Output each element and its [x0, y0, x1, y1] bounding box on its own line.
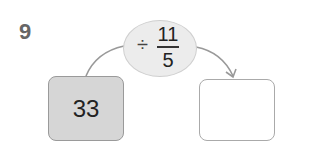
fraction: 11 5 [157, 23, 179, 71]
fraction-numerator: 11 [157, 23, 179, 45]
fraction-denominator: 5 [157, 49, 179, 71]
answer-box[interactable] [199, 79, 275, 141]
start-value-box: 33 [48, 76, 124, 141]
divide-operator: ÷ [137, 33, 148, 56]
fraction-bar [157, 46, 179, 48]
